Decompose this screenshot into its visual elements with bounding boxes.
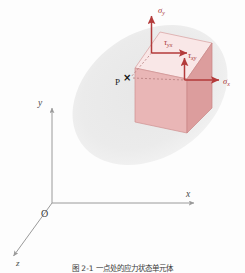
tau-yx-subscript: yx — [166, 42, 173, 48]
y-axis-label: y — [37, 98, 43, 108]
stress-element-figure: σy τyx τxy σx P × y x z O — [0, 0, 245, 273]
figure-caption-band: 图 2-1 一点处的应力状态单元体 — [0, 264, 245, 273]
sigma-y-subscript: y — [161, 10, 165, 16]
origin-label: O — [41, 208, 48, 219]
point-p-marker: × — [123, 72, 131, 83]
sigma-x-subscript: x — [226, 81, 230, 87]
cube-front-face — [135, 68, 187, 133]
x-axis-label: x — [185, 189, 191, 199]
figure-caption: 图 2-1 一点处的应力状态单元体 — [72, 264, 173, 273]
tau-xy-subscript: xy — [190, 55, 197, 61]
figure-canvas: σy τyx τxy σx P × y x z O — [0, 0, 245, 273]
point-p-label: P — [115, 77, 120, 87]
